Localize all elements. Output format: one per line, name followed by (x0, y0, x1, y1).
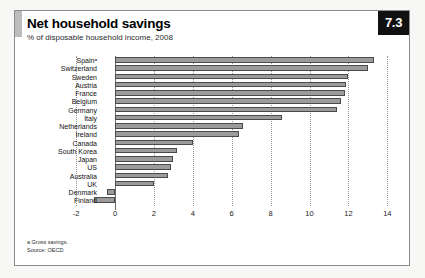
x-tick-label: 12 (344, 209, 352, 218)
category-label: Switzerland (15, 65, 97, 72)
category-label: France (15, 90, 97, 97)
bar (115, 57, 374, 63)
x-tick-label: -2 (73, 209, 80, 218)
bar (115, 90, 345, 96)
bar (115, 65, 368, 71)
category-label: Netherlands (15, 123, 97, 130)
category-label: South Korea (15, 148, 97, 155)
bar (115, 115, 282, 121)
page-background: 7.3 Net household savings % of disposabl… (0, 0, 425, 278)
bar (115, 82, 346, 88)
x-tick-label: 0 (113, 209, 117, 218)
chart-figure: 7.3 Net household savings % of disposabl… (14, 10, 410, 266)
category-label: UK (15, 181, 97, 188)
footnote-source: Source: OECD (27, 247, 63, 253)
category-label: Spainᵃ (15, 57, 97, 64)
category-label: Sweden (15, 74, 97, 81)
x-tick-label: 10 (305, 209, 313, 218)
category-label: Austria (15, 82, 97, 89)
category-label: Finland (15, 197, 97, 204)
gridline-12 (348, 56, 349, 206)
category-label: Japan (15, 156, 97, 163)
gridline-14 (387, 56, 388, 206)
bar (115, 173, 168, 179)
category-label: Australia (15, 173, 97, 180)
bar (115, 98, 341, 104)
bar (115, 156, 173, 162)
bar (115, 123, 243, 129)
x-tick-label: 2 (152, 209, 156, 218)
x-tick-label: 6 (230, 209, 234, 218)
category-label: Denmark (15, 189, 97, 196)
plot-area: -202468101214SpainᵃSwitzerlandSwedenAust… (15, 11, 409, 265)
category-label: Germany (15, 107, 97, 114)
bar (115, 181, 154, 187)
footnote-a: a Gross savings. (27, 239, 68, 245)
x-tick-label: 14 (383, 209, 391, 218)
category-label: Canada (15, 140, 97, 147)
x-tick-label: 4 (191, 209, 195, 218)
category-label: US (15, 164, 97, 171)
bar (115, 140, 193, 146)
category-label: Belgium (15, 98, 97, 105)
category-label: Italy (15, 115, 97, 122)
bar (115, 148, 177, 154)
bar (115, 164, 171, 170)
bar (115, 131, 239, 137)
bar (107, 189, 115, 195)
bar (115, 74, 348, 80)
bar (115, 107, 337, 113)
category-label: Ireland (15, 131, 97, 138)
x-tick-label: 8 (269, 209, 273, 218)
